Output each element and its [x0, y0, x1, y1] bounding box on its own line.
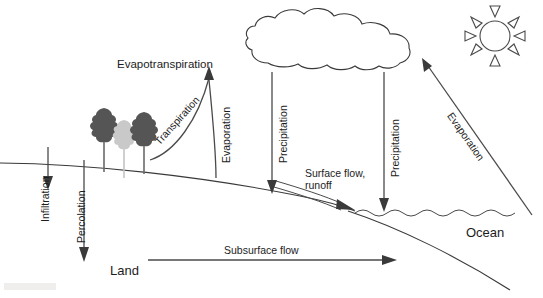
label-surface-flow-line1: Surface flow,: [305, 167, 365, 179]
label-evaporation-land: Evaporation: [220, 107, 232, 163]
ground-surface-line: [0, 163, 355, 211]
label-evapotranspiration: Evapotranspiration: [117, 58, 213, 71]
tree-left: [90, 108, 118, 172]
precipitation-left-arrow: [267, 72, 277, 194]
seabed-line: [348, 211, 510, 290]
tree-right: [130, 112, 158, 174]
label-infiltration: Infiltration: [39, 176, 51, 222]
cloud-shape: [246, 9, 410, 70]
water-cycle-diagram: Evapotranspiration Transpiration Evapora…: [0, 0, 543, 298]
label-surface-flow-line2: runoff: [305, 179, 332, 191]
label-percolation: Percolation: [75, 190, 87, 243]
subsurface-flow-arrow: [148, 255, 397, 265]
evaporation-ocean-arrow: [422, 58, 532, 215]
scan-artifact: [4, 283, 56, 290]
label-precipitation-left: Precipitation: [277, 105, 289, 163]
wavy-water-surface: [355, 210, 515, 216]
sun-shape: [465, 6, 525, 66]
label-subsurface-flow: Subsurface flow: [224, 244, 299, 256]
label-ocean: Ocean: [466, 226, 504, 241]
label-precipitation-right: Precipitation: [389, 119, 401, 177]
evaporation-land-arrow: [209, 80, 216, 178]
label-land: Land: [110, 264, 139, 279]
precipitation-right-arrow: [379, 72, 389, 212]
